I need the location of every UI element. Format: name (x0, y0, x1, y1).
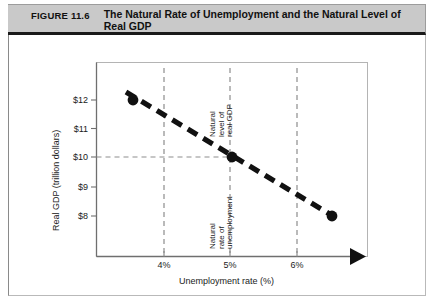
annotation-natural-level-of-real-gdp: Natural level of real GDP (209, 104, 235, 137)
y-tick-label-9: $9 (60, 182, 88, 192)
x-tick-label-5pct: 5% (223, 260, 236, 270)
figure-container: FIGURE 11.6 The Natural Rate of Unemploy… (0, 0, 432, 300)
y-axis-title: Real GDP (trillion dollars) (51, 130, 61, 231)
x-tick-label-4pct: 4% (157, 260, 170, 270)
figure-number-label: FIGURE 11.6 (31, 10, 90, 21)
y-tick-label-8: $8 (60, 211, 88, 221)
x-tick-label-6pct: 6% (290, 260, 303, 270)
y-tick-label-11: $11 (60, 124, 88, 134)
figure-title-band: FIGURE 11.6 The Natural Rate of Unemploy… (8, 4, 426, 35)
annotation-gdp-line-3: real GDP (226, 104, 235, 137)
figure-outer-border (8, 4, 426, 296)
figure-title: The Natural Rate of Unemployment and the… (104, 9, 404, 33)
annotation-natural-rate-of-unemployment: Natural rate of unemployment (209, 197, 235, 249)
y-tick-label-12: $12 (60, 95, 88, 105)
annotation-unemp-line-3: unemployment (226, 197, 235, 249)
x-axis-title: Unemployment rate (%) (179, 276, 274, 286)
y-tick-label-10: $10 (60, 152, 88, 162)
